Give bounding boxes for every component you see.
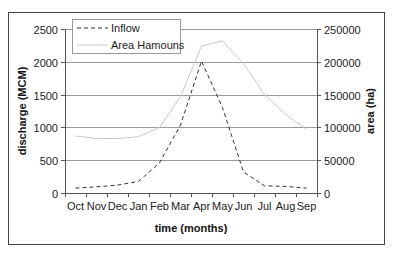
x-tick-label: Jul [257,200,271,212]
y-tick-label-left: 500 [40,155,58,167]
y-tick-label-left: 1500 [34,90,58,102]
y-tick-label-right: 100000 [324,122,361,134]
y-tick-label-right: 150000 [324,90,361,102]
x-tick-label: Oct [67,200,84,212]
x-tick-label: Nov [87,200,107,212]
y-tick-label-right: 250000 [324,24,361,36]
chart: 0500100015002000250005000010000015000020… [0,0,393,255]
y-tick-label-left: 0 [52,188,58,200]
x-tick-label: Feb [150,200,169,212]
y-axis-title-left: discharge (MCM) [16,66,28,155]
y-tick-label-left: 2500 [34,24,58,36]
x-tick-label: Jan [130,200,148,212]
x-tick-label: Jun [235,200,253,212]
y-tick-label-right: 200000 [324,57,361,69]
x-tick-label: Mar [171,200,190,212]
x-tick-label: Sep [297,200,317,212]
y-tick-label-right: 50000 [324,155,355,167]
x-tick-label: Dec [108,200,128,212]
y-tick-label-right: 0 [324,188,330,200]
y-axis-title-right: area (ha) [364,88,376,134]
x-tick-label: May [212,200,233,212]
y-tick-label-left: 2000 [34,57,58,69]
x-tick-label: Apr [193,200,210,212]
legend: Inflow Area Hamouns [73,20,185,54]
x-axis-title: time (months) [155,222,228,234]
legend-label-inflow: Inflow [111,22,140,34]
y-tick-label-left: 1000 [34,122,58,134]
legend-label-area-hamouns: Area Hamouns [111,39,185,51]
x-tick-label: Aug [276,200,296,212]
